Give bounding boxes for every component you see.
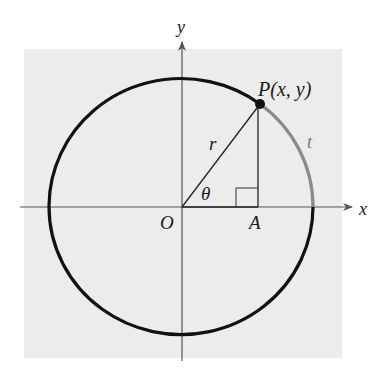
origin-label: O: [160, 212, 174, 233]
x-axis-label: x: [358, 199, 367, 219]
point-p: [255, 99, 265, 109]
point-p-label: P(x, y): [257, 78, 312, 101]
foot-label: A: [247, 212, 261, 233]
y-axis-label: y: [175, 17, 185, 37]
radius-label: r: [209, 133, 217, 154]
unit-circle-diagram: y x P(x, y) r θ O A t: [0, 0, 383, 380]
angle-label: θ: [201, 183, 210, 204]
